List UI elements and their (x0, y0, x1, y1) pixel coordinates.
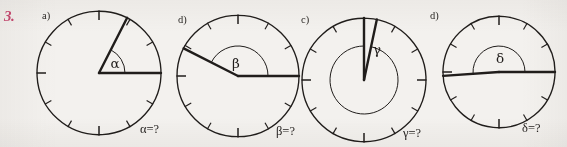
clock-tick (541, 44, 547, 48)
clock-tick (310, 49, 317, 53)
angle-symbol-α: α (110, 55, 119, 71)
clock-tick (147, 42, 154, 46)
circle-group: α (34, 8, 164, 138)
answer-label-gamma: γ=? (403, 126, 421, 141)
angle-figure-delta: δ (425, 0, 567, 147)
angle-symbol-γ: γ (373, 41, 381, 57)
clock-tick (412, 108, 419, 112)
clock-tick (207, 123, 211, 129)
clock-tick (541, 97, 547, 101)
clock-tick (412, 49, 419, 53)
clock-tick (471, 114, 475, 120)
clock-tick (524, 114, 528, 120)
part-label-a: a) (42, 10, 50, 21)
clock-tick (310, 108, 317, 112)
worksheet-page: 3. α a) α=? β d) β=? γ c) γ=? δ d) δ=? (0, 0, 567, 147)
clock-tick (471, 23, 475, 29)
clock-tick (524, 23, 528, 29)
clock-tick (68, 19, 72, 26)
clock-tick (68, 121, 72, 128)
angle-symbol-δ: δ (496, 50, 504, 66)
answer-label-alpha: α=? (140, 122, 159, 137)
clock-tick (450, 44, 456, 48)
clock-tick (392, 26, 396, 32)
clock-tick (45, 42, 52, 46)
clock-tick (207, 23, 211, 29)
clock-tick (265, 23, 269, 29)
clock-tick (450, 97, 456, 101)
clock-tick (392, 128, 396, 135)
answer-label-delta: δ=? (522, 121, 541, 136)
circle-group: β (177, 15, 300, 138)
part-label-d-1: d) (178, 14, 187, 25)
angle-diagram-delta: δ (425, 0, 567, 147)
circle-group: δ (437, 11, 560, 134)
angle-ray-2 (184, 48, 238, 76)
clock-tick (147, 101, 154, 105)
clock-tick (185, 103, 191, 107)
part-label-c: c) (301, 14, 309, 25)
clock-tick (45, 101, 52, 105)
clock-tick (127, 121, 131, 128)
clock-tick (265, 123, 269, 129)
angle-symbol-β: β (232, 55, 240, 71)
part-label-d-2: d) (430, 10, 439, 21)
clock-tick (333, 26, 337, 32)
clock-tick (333, 128, 337, 135)
